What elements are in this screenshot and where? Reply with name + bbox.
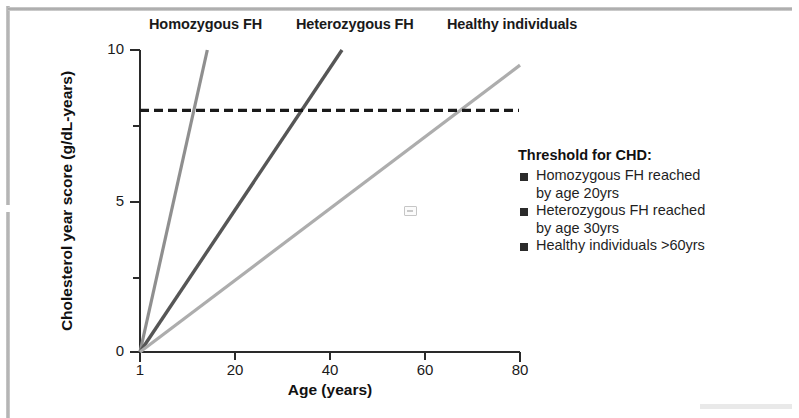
x-tick-label-1: 1: [120, 361, 160, 378]
x-tick-label-40: 40: [310, 361, 350, 378]
figure-panel: Homozygous FH Heterozygous FH Healthy in…: [0, 0, 799, 418]
y-axis-title: Cholesterol year score (g/dL-years): [58, 36, 76, 366]
x-tick-label-60: 60: [405, 361, 445, 378]
series-line-healthy-individuals: [140, 65, 520, 352]
legend-item-healthy-individuals: Healthy individuals >60yrs: [518, 237, 790, 255]
legend-item-label: Homozygous FH reached by age 20yrs: [536, 167, 700, 202]
scan-speck-inner: [407, 210, 413, 212]
x-tick-label-20: 20: [215, 361, 255, 378]
series-caption-healthy-individuals: Healthy individuals: [447, 16, 577, 32]
scan-speck-artifact: [404, 206, 417, 216]
series-caption-heterozygous-fh: Heterozygous FH: [296, 16, 414, 32]
series-line-heterozygous-fh: [140, 50, 342, 352]
legend-title: Threshold for CHD:: [518, 146, 790, 165]
series-caption-homozygous-fh: Homozygous FH: [149, 16, 262, 32]
y-axis-ticks: [130, 50, 140, 352]
legend-item-heterozygous-fh: Heterozygous FH reached by age 30yrs: [518, 202, 790, 237]
x-tick-label-80: 80: [500, 361, 540, 378]
legend-item-label: Heterozygous FH reached by age 30yrs: [536, 202, 705, 237]
square-bullet-icon: [520, 173, 528, 181]
legend: Threshold for CHD: Homozygous FH reached…: [518, 146, 790, 255]
square-bullet-icon: [520, 208, 528, 216]
x-axis-title: Age (years): [140, 381, 520, 399]
y-tick-label-5: 5: [88, 192, 124, 209]
legend-item-homozygous-fh: Homozygous FH reached by age 20yrs: [518, 167, 790, 202]
square-bullet-icon: [520, 243, 528, 251]
y-tick-label-10: 10: [88, 40, 124, 57]
y-tick-label-0: 0: [88, 342, 124, 359]
series-line-homozygous-fh: [140, 50, 207, 352]
legend-item-label: Healthy individuals >60yrs: [536, 237, 705, 255]
